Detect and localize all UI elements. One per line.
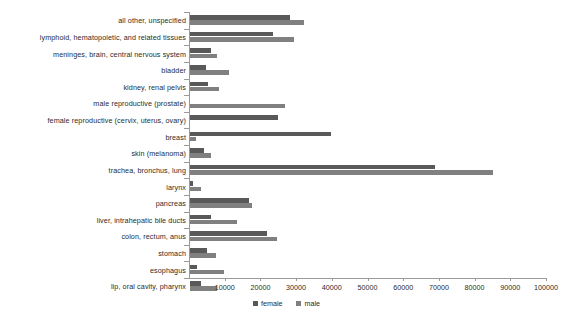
category-label: female reproductive (cervix, uterus, ova… [47,116,186,125]
bar-group [190,112,573,129]
chart-row: colon, rectum, anus [0,228,573,245]
bar-group [190,62,573,79]
category-label: esophagus [150,265,186,274]
category-label: pancreas [156,199,186,208]
bar-group [190,228,573,245]
chart-row: liver, intrahepatic bile ducts [0,212,573,229]
bar-female [190,231,267,236]
bar-chart: all other, unspecifiedlymphoid, hematopo… [0,0,573,321]
x-axis-tick-labels: 1000020000300004000050000600007000080000… [0,283,573,295]
x-axis-tick-label: 80000 [465,283,485,292]
chart-row: bladder [0,62,573,79]
bar-group [190,195,573,212]
x-axis-tick [225,278,226,281]
bar-group [190,128,573,145]
bar-male [190,203,252,208]
y-axis-tick [184,29,189,30]
bar-group [190,29,573,46]
bar-male [190,104,285,109]
legend-swatch-icon [253,301,258,306]
y-axis-tick [184,79,189,80]
category-label: liver, intrahepatic bile ducts [97,215,186,224]
bar-female [190,265,197,270]
x-axis-tick [260,278,261,281]
bar-group [190,212,573,229]
bar-male [190,153,211,158]
bar-female [190,82,208,87]
x-axis-tick-label: 70000 [429,283,449,292]
legend-item-female[interactable]: female [253,299,283,308]
bar-female [190,181,193,186]
chart-row: trachea, bronchus, lung [0,162,573,179]
chart-row: skin (melanoma) [0,145,573,162]
chart-row: breast [0,128,573,145]
bar-male [190,54,217,59]
bar-group [190,45,573,62]
legend-swatch-icon [296,301,301,306]
y-axis-tick [184,95,189,96]
bar-male [190,170,493,175]
bar-male [190,270,224,275]
chart-row: lymphoid, hematopoietic, and related tis… [0,29,573,46]
y-axis-tick [184,12,189,13]
x-axis-tick-label: 30000 [286,283,306,292]
bar-male [190,70,229,75]
x-axis-tick [403,278,404,281]
bar-female [190,215,211,220]
y-axis-tick [184,45,189,46]
x-axis-tick [475,278,476,281]
bar-male [190,187,201,192]
y-axis-tick [184,212,189,213]
x-axis-tick-label: 100000 [534,283,558,292]
bar-male [190,220,237,225]
category-label: larynx [166,182,186,191]
bar-male [190,87,219,92]
chart-rows: all other, unspecifiedlymphoid, hematopo… [0,12,573,278]
x-axis-tick-label: 20000 [250,283,270,292]
chart-row: female reproductive (cervix, uterus, ova… [0,112,573,129]
category-label: skin (melanoma) [131,149,186,158]
bar-group [190,178,573,195]
chart-legend: femalemale [0,299,573,308]
x-axis-ticks [189,278,547,282]
chart-row: male reproductive (prostate) [0,95,573,112]
y-axis-tick [184,178,189,179]
y-axis-tick [184,128,189,129]
bar-group [190,79,573,96]
chart-row: all other, unspecified [0,12,573,29]
category-label: meninges, brain, central nervous system [53,49,186,58]
legend-item-male[interactable]: male [296,299,320,308]
bar-female [190,32,273,37]
bar-group [190,245,573,262]
bar-group [190,261,573,278]
y-axis-tick [184,162,189,163]
y-axis-tick [184,245,189,246]
category-label: kidney, renal pelvis [123,82,186,91]
bar-female [190,198,249,203]
y-axis-tick [184,228,189,229]
chart-row: stomach [0,245,573,262]
bar-group [190,145,573,162]
y-axis-tick [184,261,189,262]
category-label: lymphoid, hematopoietic, and related tis… [40,32,186,41]
bar-female [190,65,206,70]
bar-female [190,15,290,20]
y-axis-tick [184,195,189,196]
y-axis-tick [184,145,189,146]
bar-male [190,37,294,42]
bar-female [190,148,204,153]
x-axis-tick [439,278,440,281]
bar-male [190,253,216,258]
bar-group [190,95,573,112]
bar-female [190,115,278,120]
chart-row: larynx [0,178,573,195]
category-label: stomach [158,249,186,258]
bar-male [190,237,277,242]
x-axis-tick [332,278,333,281]
x-axis-tick [510,278,511,281]
category-label: breast [165,132,186,141]
bar-male [190,137,196,142]
x-axis-tick-label: 90000 [500,283,520,292]
x-axis-tick-label: 40000 [322,283,342,292]
y-axis-tick [184,112,189,113]
